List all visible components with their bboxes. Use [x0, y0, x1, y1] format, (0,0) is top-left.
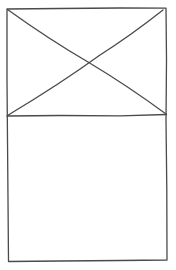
image-placeholder — [7, 10, 167, 117]
outer-frame — [7, 8, 167, 262]
wireframe-sketch — [0, 0, 176, 270]
image-placeholder-divider — [7, 115, 167, 117]
content-area — [9, 118, 165, 259]
